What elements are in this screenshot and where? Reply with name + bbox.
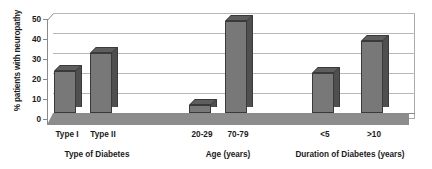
y-axis-title: % patients with neuropathy	[13, 2, 22, 120]
bar-type-ii	[90, 47, 112, 113]
y-axis-line	[47, 19, 48, 125]
gridline-50	[53, 13, 415, 14]
y-tick-mark-40	[43, 39, 47, 40]
bar-type-i	[54, 65, 76, 113]
bar-front-face	[189, 105, 211, 113]
x-tick-label-type-i: Type I	[55, 130, 78, 139]
bar-side-face	[247, 15, 253, 107]
gridline-0	[53, 113, 415, 114]
bar-side-face	[76, 65, 82, 107]
plot-area: 01020304050	[47, 13, 415, 125]
bar-side-face	[112, 47, 118, 107]
bar-chart-figure: % patients with neuropathy 01020304050 T…	[0, 0, 432, 169]
bar--10	[361, 35, 383, 113]
bar-front-face	[90, 53, 112, 113]
bar-front-face	[225, 21, 247, 113]
y-tick-mark-50	[43, 19, 47, 20]
plot-floor-3d	[47, 113, 409, 125]
bar-side-face	[334, 67, 340, 107]
x-tick-label-20-29: 20-29	[192, 130, 213, 139]
bar-front-face	[54, 71, 76, 113]
y-tick-label-20: 20	[32, 75, 41, 84]
y-tick-label-30: 30	[32, 55, 41, 64]
bar-side-face	[383, 35, 389, 107]
x-tick-label--5: <5	[320, 130, 329, 139]
y-tick-label-10: 10	[32, 95, 41, 104]
axis-depth-connector	[47, 13, 55, 21]
bar-70-79	[225, 15, 247, 113]
bar-20-29	[189, 99, 211, 113]
x-tick-label-70-79: 70-79	[228, 130, 249, 139]
bar-front-face	[361, 41, 383, 113]
y-tick-label-50: 50	[32, 15, 41, 24]
y-tick-label-0: 0	[36, 115, 41, 124]
y-tick-mark-10	[43, 99, 47, 100]
group-label-age-years-: Age (years)	[206, 150, 251, 159]
y-tick-label-40: 40	[32, 35, 41, 44]
y-tick-mark-30	[43, 59, 47, 60]
y-tick-mark-20	[43, 79, 47, 80]
x-tick-label--10: >10	[367, 130, 381, 139]
group-label-duration-of-diabetes-years-: Duration of Diabetes (years)	[295, 150, 404, 159]
bar--5	[312, 67, 334, 113]
y-tick-mark-0	[43, 119, 47, 120]
x-tick-label-type-ii: Type II	[90, 130, 115, 139]
group-label-type-of-diabetes: Type of Diabetes	[65, 150, 130, 159]
bar-front-face	[312, 73, 334, 113]
